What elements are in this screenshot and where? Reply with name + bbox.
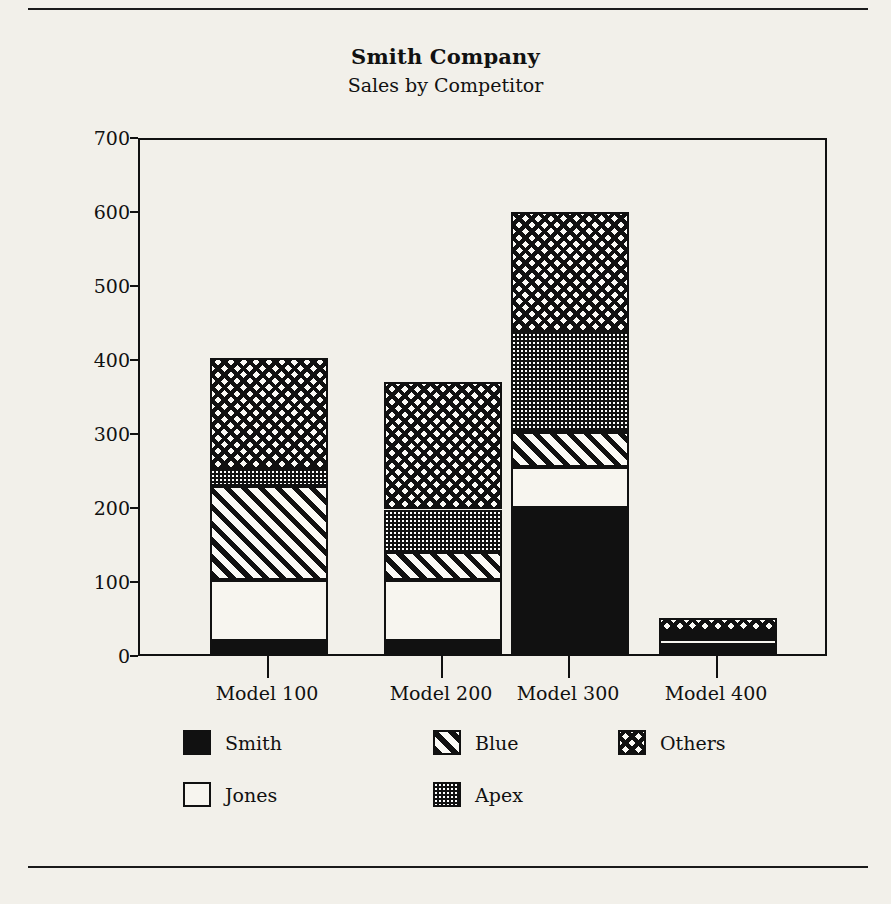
page-rule-bottom bbox=[28, 866, 868, 868]
legend-swatch-blue-icon bbox=[433, 730, 461, 755]
x-tick-mark bbox=[568, 656, 570, 678]
legend-label: Jones bbox=[225, 784, 277, 806]
x-tick-mark bbox=[441, 656, 443, 678]
y-tick-label: 500 bbox=[70, 275, 130, 297]
legend-swatch-others-icon bbox=[618, 730, 646, 755]
bar-segment-apex[interactable] bbox=[210, 469, 328, 486]
y-tick-label: 200 bbox=[70, 497, 130, 519]
legend-item-apex[interactable]: Apex bbox=[433, 782, 523, 807]
bar-segment-blue[interactable] bbox=[511, 432, 629, 468]
x-tick-label-model-300: Model 300 bbox=[483, 682, 653, 704]
bar-segment-smith[interactable] bbox=[511, 508, 629, 656]
bar-segment-jones[interactable] bbox=[511, 467, 629, 508]
y-tick-mark bbox=[130, 655, 138, 657]
bar-segment-blue[interactable] bbox=[210, 486, 328, 580]
bar-segment-blue[interactable] bbox=[659, 635, 777, 639]
y-tick-label: 400 bbox=[70, 349, 130, 371]
bar-segment-others[interactable] bbox=[210, 358, 328, 469]
page-rule-top bbox=[28, 8, 868, 10]
y-tick-mark bbox=[130, 581, 138, 583]
bar-segment-apex[interactable] bbox=[659, 631, 777, 635]
x-tick-mark bbox=[716, 656, 718, 678]
plot-area bbox=[138, 138, 827, 656]
chart-legend: SmithBlueOthersJonesApex bbox=[138, 730, 838, 840]
y-tick-label: 700 bbox=[70, 127, 130, 149]
y-tick-mark bbox=[130, 211, 138, 213]
legend-item-others[interactable]: Others bbox=[618, 730, 726, 755]
legend-item-blue[interactable]: Blue bbox=[433, 730, 519, 755]
y-tick-mark bbox=[130, 433, 138, 435]
legend-swatch-smith-icon bbox=[183, 730, 211, 755]
legend-swatch-apex-icon bbox=[433, 782, 461, 807]
bar-segment-smith[interactable] bbox=[210, 641, 328, 656]
bar-model-100[interactable] bbox=[210, 356, 328, 654]
bar-segment-apex[interactable] bbox=[511, 332, 629, 432]
legend-label: Others bbox=[660, 732, 726, 754]
legend-label: Apex bbox=[475, 784, 523, 806]
y-tick-mark bbox=[130, 285, 138, 287]
y-tick-mark bbox=[130, 507, 138, 509]
bar-model-400[interactable] bbox=[659, 616, 777, 654]
legend-item-jones[interactable]: Jones bbox=[183, 782, 277, 807]
bar-segment-blue[interactable] bbox=[384, 552, 502, 579]
legend-item-smith[interactable]: Smith bbox=[183, 730, 282, 755]
chart-subtitle: Sales by Competitor bbox=[0, 74, 891, 96]
bar-segment-jones[interactable] bbox=[210, 580, 328, 641]
x-axis: Model 100Model 200Model 300Model 400 bbox=[138, 656, 827, 716]
bar-model-200[interactable] bbox=[384, 380, 502, 654]
y-tick-label: 0 bbox=[70, 645, 130, 667]
y-tick-label: 300 bbox=[70, 423, 130, 445]
bar-segment-smith[interactable] bbox=[659, 645, 777, 656]
chart-title: Smith Company bbox=[0, 44, 891, 69]
y-axis-tick-labels: 0100200300400500600700 bbox=[58, 138, 130, 656]
y-tick-label: 600 bbox=[70, 201, 130, 223]
bar-segment-others[interactable] bbox=[511, 212, 629, 332]
bar-segment-apex[interactable] bbox=[384, 510, 502, 553]
legend-label: Blue bbox=[475, 732, 519, 754]
y-tick-mark bbox=[130, 137, 138, 139]
y-tick-label: 100 bbox=[70, 571, 130, 593]
bar-segment-jones[interactable] bbox=[659, 639, 777, 645]
x-tick-label-model-400: Model 400 bbox=[631, 682, 801, 704]
x-tick-mark bbox=[267, 656, 269, 678]
legend-swatch-jones-icon bbox=[183, 782, 211, 807]
y-tick-mark bbox=[130, 359, 138, 361]
bar-segment-smith[interactable] bbox=[384, 641, 502, 656]
legend-label: Smith bbox=[225, 732, 282, 754]
bar-model-300[interactable] bbox=[511, 210, 629, 654]
x-tick-label-model-100: Model 100 bbox=[182, 682, 352, 704]
bar-segment-others[interactable] bbox=[384, 382, 502, 509]
bar-segment-jones[interactable] bbox=[384, 580, 502, 641]
bar-segment-others[interactable] bbox=[659, 618, 777, 631]
